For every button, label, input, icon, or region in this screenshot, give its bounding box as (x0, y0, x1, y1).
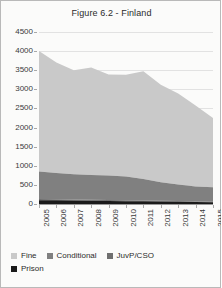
legend-item-juvp-cso[interactable]: JuvP/CSO (107, 251, 154, 260)
y-axis-tick-mark (34, 147, 37, 148)
legend-item-conditional[interactable]: Conditional (47, 251, 97, 260)
legend-item-prison[interactable]: Prison (11, 264, 44, 273)
stacked-area-series (39, 32, 213, 204)
y-axis-tick-mark (34, 89, 37, 90)
legend-label-fine: Fine (21, 251, 37, 260)
y-axis-tick-label: 2500 (15, 104, 33, 112)
x-axis-tick-label: 2010 (130, 209, 138, 227)
legend-swatch-prison (11, 266, 17, 272)
y-axis: 050010001500200025003000350040004500 (1, 32, 37, 204)
x-axis-tick-label: 2005 (43, 209, 51, 227)
x-axis-tick-mark (178, 205, 179, 208)
y-axis-tick-mark (34, 204, 37, 205)
x-axis-tick-label: 2014 (199, 209, 207, 227)
x-axis-tick-mark (39, 205, 40, 208)
y-axis-tick-mark (34, 166, 37, 167)
y-axis-tick-mark (34, 108, 37, 109)
y-axis-tick-mark (34, 70, 37, 71)
x-axis-tick-mark (56, 205, 57, 208)
legend-swatch-juvp-cso (107, 253, 113, 259)
x-axis-tick-label: 2011 (147, 209, 155, 226)
legend-swatch-fine (11, 253, 17, 259)
y-axis-tick-label: 500 (20, 181, 33, 189)
y-axis-tick-label: 4000 (15, 47, 33, 55)
x-axis: 2005200620072008200920102011201220132014… (39, 205, 213, 245)
legend-row-primary: Fine Conditional JuvP/CSO (11, 249, 216, 262)
x-axis-tick-mark (143, 205, 144, 208)
y-axis-tick-label: 3500 (15, 66, 33, 74)
x-axis-tick-label: 2007 (77, 209, 85, 227)
x-axis-tick-label: 2006 (60, 209, 68, 227)
x-axis-tick-label: 2015 (217, 209, 222, 227)
y-axis-tick-label: 1000 (15, 162, 33, 170)
legend-swatch-conditional (47, 253, 53, 259)
legend-item-fine[interactable]: Fine (11, 251, 37, 260)
y-axis-tick-mark (34, 51, 37, 52)
x-axis-tick-label: 2008 (95, 209, 103, 227)
x-axis-tick-mark (91, 205, 92, 208)
y-axis-tick-mark (34, 185, 37, 186)
chart-legend: Fine Conditional JuvP/CSO Prison (11, 249, 216, 275)
x-axis-tick-label: 2009 (112, 209, 120, 227)
legend-label-juvp-cso: JuvP/CSO (117, 251, 154, 260)
y-axis-tick-label: 3000 (15, 85, 33, 93)
x-axis-tick-mark (161, 205, 162, 208)
x-axis-tick-mark (196, 205, 197, 208)
x-axis-tick-mark (126, 205, 127, 208)
x-axis-tick-mark (213, 205, 214, 208)
x-axis-tick-label: 2012 (164, 209, 172, 227)
y-axis-tick-label: 1500 (15, 143, 33, 151)
chart-title: Figure 6.2 - Finland (1, 8, 221, 18)
area-band-fine (39, 51, 213, 187)
x-axis-tick-mark (109, 205, 110, 208)
x-axis-tick-label: 2013 (182, 209, 190, 227)
legend-label-prison: Prison (21, 264, 44, 273)
legend-row-secondary: Prison (11, 262, 216, 275)
y-axis-tick-mark (34, 128, 37, 129)
y-axis-tick-label: 4500 (15, 28, 33, 36)
y-axis-tick-mark (34, 32, 37, 33)
chart-figure: Figure 6.2 - Finland 0500100015002000250… (0, 0, 221, 288)
y-axis-tick-label: 2000 (15, 124, 33, 132)
y-axis-tick-label: 0 (29, 200, 33, 208)
plot-area (39, 32, 213, 204)
legend-label-conditional: Conditional (57, 251, 97, 260)
x-axis-tick-mark (74, 205, 75, 208)
